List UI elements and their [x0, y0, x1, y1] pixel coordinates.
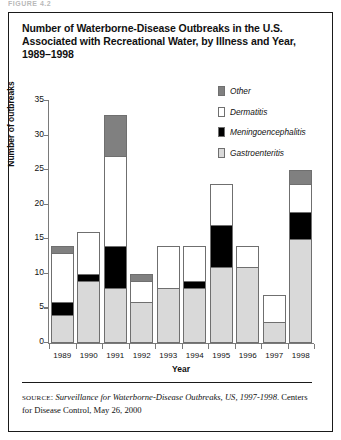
x-tick-mark — [129, 344, 130, 349]
bar-segment-gastroenteritis — [236, 267, 259, 343]
bar-1991[interactable] — [104, 115, 127, 343]
bar-slot — [261, 101, 288, 343]
x-tick-mark — [76, 344, 77, 349]
x-tick-label-1990: 1990 — [76, 351, 103, 360]
bar-slot — [235, 101, 262, 343]
bar-segment-other — [130, 274, 153, 281]
y-tick-label: 5 — [24, 301, 44, 311]
bar-segment-meningoencephalitis — [289, 212, 312, 240]
x-tick-mark — [288, 344, 289, 349]
x-tick-mark — [314, 344, 315, 349]
x-tick-mark — [182, 344, 183, 349]
y-tick-label: 10 — [24, 267, 44, 277]
bar-1995[interactable] — [210, 184, 233, 343]
x-tick-mark — [155, 344, 156, 349]
scan-page-header: FIGURE 4.2 — [8, 0, 128, 9]
bar-segment-gastroenteritis — [210, 267, 233, 343]
axes: 05101520253035 1989199019911992199319941… — [48, 100, 314, 344]
bar-segment-gastroenteritis — [51, 315, 74, 343]
x-axis-label: Year — [48, 364, 314, 374]
legend-item-other: Other — [218, 86, 333, 96]
source-title: Surveillance for Waterborne-Disease Outb… — [55, 392, 277, 402]
bar-1993[interactable] — [157, 246, 180, 343]
bar-segment-dermatitis — [130, 281, 153, 302]
bar-slot — [102, 101, 129, 343]
legend-swatch-icon — [218, 86, 225, 96]
chart-plot-area: Number of outbreaks 05101520253035 19891… — [22, 96, 322, 352]
y-axis-label: Number of outbreaks — [6, 64, 16, 184]
x-tick-mark — [49, 344, 50, 349]
bar-segment-gastroenteritis — [289, 239, 312, 343]
bar-1998[interactable] — [289, 170, 312, 343]
bar-segment-gastroenteritis — [77, 281, 100, 343]
figure-title: Number of Waterborne-Disease Outbreaks i… — [22, 22, 312, 62]
x-tick-label-1997: 1997 — [261, 351, 288, 360]
y-tick-label: 35 — [24, 94, 44, 104]
bar-segment-meningoencephalitis — [183, 281, 206, 288]
bar-segment-dermatitis — [236, 246, 259, 267]
bar-segment-dermatitis — [157, 246, 180, 287]
bar-segment-gastroenteritis — [130, 302, 153, 343]
bar-segment-dermatitis — [104, 156, 127, 246]
x-tick-label-1994: 1994 — [182, 351, 209, 360]
legend-label: Other — [230, 86, 251, 96]
bar-1992[interactable] — [130, 274, 153, 343]
x-axis-ticks: 1989199019911992199319941995199619971998 — [49, 351, 314, 360]
bar-segment-dermatitis — [77, 232, 100, 273]
x-tick-label-1992: 1992 — [129, 351, 156, 360]
bar-slot — [208, 101, 235, 343]
bar-slot — [129, 101, 156, 343]
y-tick-label: 20 — [24, 198, 44, 208]
bar-1990[interactable] — [77, 232, 100, 343]
y-tick-label: 30 — [24, 129, 44, 139]
source-note: SOURCE: Surveillance for Waterborne-Dise… — [22, 392, 314, 416]
bar-1997[interactable] — [263, 295, 286, 343]
x-tick-mark — [261, 344, 262, 349]
bar-1989[interactable] — [51, 246, 74, 343]
bar-segment-meningoencephalitis — [77, 274, 100, 281]
x-tick-label-1993: 1993 — [155, 351, 182, 360]
bar-1994[interactable] — [183, 246, 206, 343]
x-tick-mark — [235, 344, 236, 349]
x-tick-mark — [208, 344, 209, 349]
x-tick-mark — [102, 344, 103, 349]
x-tick-label-1991: 1991 — [102, 351, 129, 360]
figure-screenshot: FIGURE 4.2 Number of Waterborne-Disease … — [0, 0, 341, 440]
bar-segment-meningoencephalitis — [51, 302, 74, 316]
x-tick-label-1998: 1998 — [288, 351, 315, 360]
bar-segment-meningoencephalitis — [210, 225, 233, 266]
bar-segment-dermatitis — [183, 246, 206, 281]
bar-segment-dermatitis — [263, 295, 286, 323]
bar-segment-dermatitis — [51, 253, 74, 301]
y-tick-label: 0 — [24, 336, 44, 346]
bar-slot — [182, 101, 209, 343]
bar-segment-gastroenteritis — [263, 322, 286, 343]
bar-slot — [288, 101, 315, 343]
bar-segment-gastroenteritis — [104, 288, 127, 343]
source-divider — [22, 382, 312, 383]
bar-segment-other — [51, 246, 74, 253]
y-tick-label: 25 — [24, 163, 44, 173]
bar-segment-meningoencephalitis — [104, 246, 127, 287]
bar-slot — [49, 101, 76, 343]
bar-segment-other — [104, 115, 127, 156]
x-tick-label-1989: 1989 — [49, 351, 76, 360]
y-tick-label: 15 — [24, 232, 44, 242]
bar-segment-dermatitis — [289, 184, 312, 212]
bar-slot — [76, 101, 103, 343]
bar-segment-other — [289, 170, 312, 184]
bar-segment-gastroenteritis — [183, 288, 206, 343]
bar-1996[interactable] — [236, 246, 259, 343]
bar-segment-dermatitis — [210, 184, 233, 225]
source-keyword: SOURCE — [22, 394, 51, 402]
bar-group — [49, 101, 314, 343]
x-tick-label-1996: 1996 — [235, 351, 262, 360]
bar-segment-gastroenteritis — [157, 288, 180, 343]
bar-slot — [155, 101, 182, 343]
x-tick-label-1995: 1995 — [208, 351, 235, 360]
